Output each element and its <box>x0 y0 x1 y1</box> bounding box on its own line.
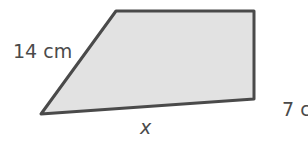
right-side-label: 7 c <box>282 100 308 119</box>
trapezoid-shape <box>41 11 254 114</box>
trapezoid-figure <box>0 0 308 152</box>
bottom-side-label: x <box>140 118 151 137</box>
slant-side-label: 14 cm <box>13 42 72 61</box>
